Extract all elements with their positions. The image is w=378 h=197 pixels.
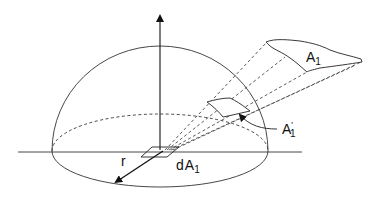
area-a1-prime-surface: [207, 98, 250, 117]
hemisphere-diagram: A1 A'1 dA1 r: [0, 0, 378, 197]
label-da1: dA1: [176, 157, 200, 175]
base-ellipse-front: [52, 151, 268, 187]
a1-prime-leader: [240, 115, 277, 129]
label-a1-prime: A'1: [282, 120, 296, 139]
label-radius: r: [121, 153, 126, 169]
